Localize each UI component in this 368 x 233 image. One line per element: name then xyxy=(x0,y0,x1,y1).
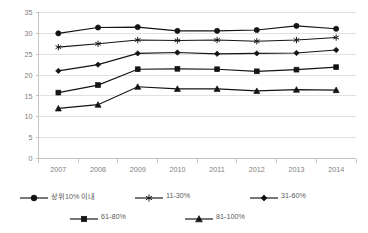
marker-diamond xyxy=(135,51,140,56)
series-2 xyxy=(56,34,339,50)
y-tick-label: 30 xyxy=(25,29,33,38)
y-tick-label: 5 xyxy=(29,133,33,142)
x-tick-marks xyxy=(39,159,357,163)
plot-area: 05101520253035 2007200820092010201120122… xyxy=(0,0,368,185)
chart-canvas: 05101520253035 2007200820092010201120122… xyxy=(0,0,368,185)
legend-item-triangle[interactable]: 81-100% xyxy=(184,206,299,227)
y-tick-labels: 05101520253035 xyxy=(25,8,33,163)
legend-key-square-icon xyxy=(69,213,99,225)
y-tick-label: 25 xyxy=(25,50,33,59)
marker-diamond xyxy=(261,194,267,200)
legend-key xyxy=(19,190,49,202)
marker-diamond xyxy=(294,50,299,55)
series-1 xyxy=(56,23,339,36)
legend-key-diamond-icon xyxy=(249,192,279,204)
x-tick-label: 2008 xyxy=(90,165,106,174)
marker-circle xyxy=(56,31,61,36)
marker-circle xyxy=(254,27,259,32)
marker-circle xyxy=(214,28,219,33)
marker-square xyxy=(334,65,339,70)
marker-diamond xyxy=(56,68,61,73)
marker-diamond xyxy=(214,51,219,56)
y-tick-label: 0 xyxy=(29,154,33,163)
y-tick-label: 15 xyxy=(25,92,33,101)
marker-square xyxy=(215,67,220,72)
y-tick-label: 20 xyxy=(25,71,33,80)
marker-diamond xyxy=(95,62,100,67)
marker-circle xyxy=(294,23,299,28)
marker-square xyxy=(175,66,180,71)
y-axis xyxy=(36,12,39,159)
legend-item-label: 31-60% xyxy=(279,191,306,200)
line-chart: 05101520253035 2007200820092010201120122… xyxy=(0,0,368,233)
marker-circle xyxy=(334,26,339,31)
legend-key-triangle-icon xyxy=(184,213,214,225)
chart-legend: 상위10% 이내11-30%31-60% 61-80%81-100% xyxy=(0,183,368,233)
marker-square xyxy=(96,83,101,88)
marker-square xyxy=(254,69,259,74)
legend-row: 61-80%81-100% xyxy=(0,206,368,227)
marker-square xyxy=(135,67,140,72)
legend-item-label: 상위10% 이내 xyxy=(49,191,95,201)
legend-item-circle[interactable]: 상위10% 이내 xyxy=(19,185,134,206)
marker-diamond xyxy=(333,47,338,52)
x-tick-label: 2010 xyxy=(169,165,185,174)
legend-item-diamond[interactable]: 31-60% xyxy=(249,185,349,206)
marker-circle xyxy=(135,25,140,30)
legend-key xyxy=(134,190,164,202)
legend-item-label: 11-30% xyxy=(164,191,190,200)
gridlines xyxy=(39,13,357,159)
marker-circle xyxy=(175,28,180,33)
legend-item-square[interactable]: 61-80% xyxy=(69,206,184,227)
x-tick-label: 2009 xyxy=(130,165,146,174)
legend-key xyxy=(249,190,279,202)
legend-item-label: 81-100% xyxy=(214,212,245,221)
legend-row: 상위10% 이내11-30%31-60% xyxy=(0,185,368,206)
x-tick-label: 2007 xyxy=(50,165,66,174)
legend-key xyxy=(184,211,214,223)
marker-diamond xyxy=(254,51,259,56)
series-5 xyxy=(55,84,339,111)
y-tick-label: 10 xyxy=(25,112,33,121)
legend-item-asterisk[interactable]: 11-30% xyxy=(134,185,249,206)
y-tick-label: 35 xyxy=(25,8,33,17)
x-tick-label: 2014 xyxy=(328,165,344,174)
x-tick-labels: 20072008200920102011201220132014 xyxy=(50,165,344,174)
legend-key xyxy=(69,211,99,223)
marker-square xyxy=(56,90,61,95)
marker-square xyxy=(81,216,86,221)
marker-square xyxy=(294,67,299,72)
marker-circle xyxy=(31,195,37,201)
series-layer xyxy=(55,23,339,111)
marker-circle xyxy=(95,25,100,30)
legend-key-circle-icon xyxy=(19,192,49,204)
x-tick-label: 2012 xyxy=(249,165,265,174)
legend-item-label: 61-80% xyxy=(99,212,126,221)
legend-key-asterisk-icon xyxy=(134,192,164,204)
x-tick-label: 2011 xyxy=(209,165,224,174)
x-tick-label: 2013 xyxy=(288,165,304,174)
